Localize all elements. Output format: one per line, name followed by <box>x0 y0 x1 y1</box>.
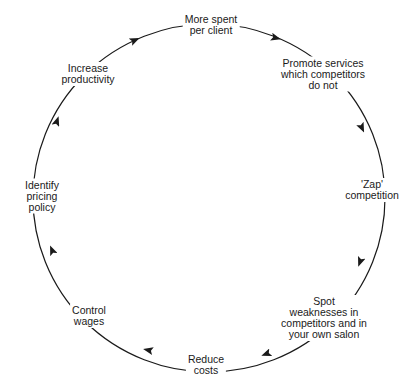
node-more-spent-per-client: More spent per client <box>183 13 240 37</box>
arrow-icon-right-lower <box>360 246 366 262</box>
node-spot-weaknesses: Spot weaknesses in competitors and in yo… <box>279 295 369 341</box>
node-zap-competition: 'Zap' competition <box>343 178 401 202</box>
node-reduce-costs: Reduce costs <box>186 353 226 377</box>
node-increase-productivity: Increase productivity <box>59 62 116 86</box>
node-control-wages: Control wages <box>70 304 108 328</box>
arrow-icon-right-upper <box>356 115 362 128</box>
arrow-icon-left-lower <box>52 250 57 262</box>
node-promote-services: Promote services which competitors do no… <box>279 57 367 92</box>
node-identify-pricing-policy: Identify pricing policy <box>23 179 61 214</box>
arrow-icon-bottom-right <box>266 349 279 354</box>
arrow-icon-left-upper <box>52 121 57 136</box>
arrow-icon-bottom-left <box>148 350 162 353</box>
